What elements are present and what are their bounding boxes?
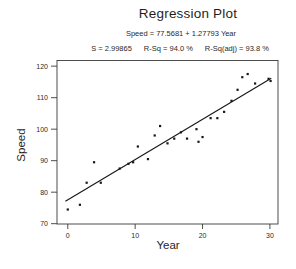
y-tick-label: 110 bbox=[37, 94, 48, 101]
data-point bbox=[166, 142, 168, 144]
data-point bbox=[247, 73, 249, 75]
y-tick-label: 70 bbox=[40, 220, 48, 227]
data-point bbox=[67, 208, 69, 210]
data-point bbox=[216, 117, 218, 119]
data-point bbox=[137, 145, 139, 147]
data-point bbox=[159, 125, 161, 127]
data-point bbox=[119, 167, 121, 169]
plot-area-border bbox=[57, 61, 278, 225]
data-point bbox=[269, 80, 271, 82]
data-point bbox=[186, 138, 188, 140]
data-point bbox=[180, 131, 182, 133]
y-tick-label: 80 bbox=[40, 189, 48, 196]
regression-fit-line bbox=[65, 78, 271, 201]
x-tick-label: 10 bbox=[131, 232, 139, 239]
data-point bbox=[201, 136, 203, 138]
data-point bbox=[241, 76, 243, 78]
x-tick-label: 0 bbox=[66, 232, 70, 239]
data-point bbox=[236, 89, 238, 91]
data-point bbox=[197, 141, 199, 143]
data-point bbox=[210, 117, 212, 119]
data-point bbox=[147, 158, 149, 160]
x-tick-label: 30 bbox=[266, 232, 274, 239]
data-point bbox=[223, 111, 225, 113]
data-point bbox=[86, 182, 88, 184]
data-point bbox=[132, 161, 134, 163]
data-point bbox=[100, 182, 102, 184]
y-tick-label: 90 bbox=[40, 157, 48, 164]
data-point bbox=[127, 163, 129, 165]
y-tick-label: 120 bbox=[36, 63, 48, 70]
x-tick-label: 20 bbox=[199, 232, 207, 239]
scatter-plot-canvas: 7080901001101200102030 bbox=[0, 0, 296, 269]
data-point bbox=[79, 204, 81, 206]
y-tick-label: 100 bbox=[36, 126, 48, 133]
data-point bbox=[154, 134, 156, 136]
data-point bbox=[195, 128, 197, 130]
data-point bbox=[267, 78, 269, 80]
regression-plot-figure: Regression Plot Speed = 77.5681 + 1.2779… bbox=[0, 0, 296, 269]
data-point bbox=[93, 161, 95, 163]
data-point bbox=[173, 138, 175, 140]
data-point bbox=[254, 82, 256, 84]
x-axis-label: Year bbox=[118, 239, 218, 251]
data-point bbox=[230, 100, 232, 102]
